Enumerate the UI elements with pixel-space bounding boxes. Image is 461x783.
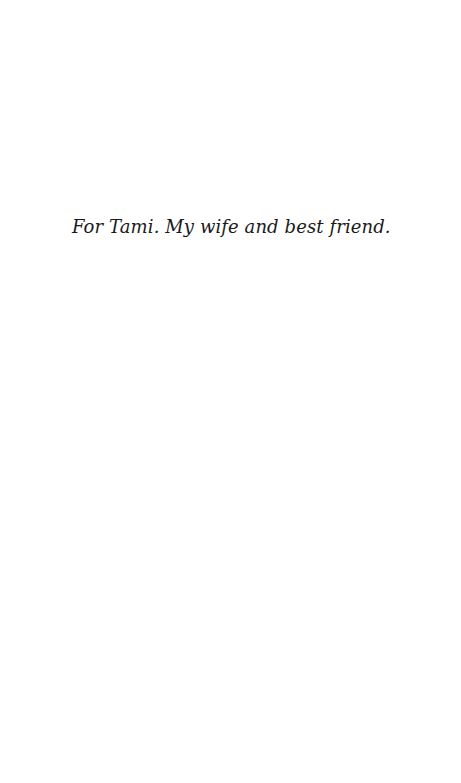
dedication-text: For Tami. My wife and best friend.: [72, 214, 391, 240]
book-page: For Tami. My wife and best friend.: [0, 0, 461, 783]
